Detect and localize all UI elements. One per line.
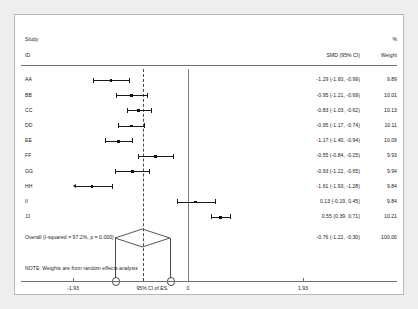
weight-label: 9.94 bbox=[15, 169, 397, 174]
forest-plot-figure: StudyIDSMD (95% CI)%WeightAA-1.29 (-1.60… bbox=[0, 0, 418, 309]
weight-label: 10.09 bbox=[15, 138, 397, 143]
weight-label: 10.21 bbox=[15, 214, 397, 219]
weight-label: 9.93 bbox=[15, 153, 397, 158]
effect-marker bbox=[130, 125, 133, 128]
ci-cap-right bbox=[112, 184, 113, 189]
weight-label: 9.89 bbox=[15, 77, 397, 82]
ci-arrowhead-icon bbox=[73, 184, 76, 188]
x-axis-tick-label: 1.93 bbox=[298, 285, 308, 291]
diamond-leg-left bbox=[115, 238, 116, 279]
ci-cap-left bbox=[138, 154, 139, 159]
ci-cap-left bbox=[211, 214, 212, 219]
ci-cap-right bbox=[173, 154, 174, 159]
x-axis-tick bbox=[188, 278, 189, 281]
x-axis-tick bbox=[73, 278, 74, 281]
null-reference-line bbox=[188, 69, 189, 281]
ci-cap-left bbox=[116, 93, 117, 98]
confidence-interval-line bbox=[76, 186, 111, 187]
column-header-percent: % bbox=[15, 37, 397, 42]
effect-marker bbox=[137, 109, 140, 112]
ci-cap-left bbox=[118, 123, 119, 128]
ci-cap-right bbox=[144, 123, 145, 128]
pooled-estimate-line bbox=[143, 69, 144, 281]
x-axis-title: 95% CI of ES. bbox=[137, 285, 169, 291]
note-text: NOTE: Weights are from random effects an… bbox=[25, 266, 138, 271]
header-separator bbox=[21, 65, 397, 66]
diamond-leg-right bbox=[170, 238, 171, 279]
weight-label: 10.13 bbox=[15, 108, 397, 113]
effect-marker bbox=[219, 216, 222, 219]
x-axis-tick bbox=[303, 278, 304, 281]
ci-cap-left bbox=[177, 199, 178, 204]
effect-marker bbox=[131, 170, 134, 173]
x-axis-tick-label: -1.93 bbox=[67, 285, 79, 291]
pooled-diamond bbox=[115, 229, 170, 247]
ci-cap-right bbox=[129, 78, 130, 83]
column-header-weight: Weight bbox=[15, 53, 397, 58]
x-axis-tick-label: 0 bbox=[187, 285, 190, 291]
plot-panel: StudyIDSMD (95% CI)%WeightAA-1.29 (-1.60… bbox=[14, 14, 404, 295]
effect-marker bbox=[130, 94, 133, 97]
effect-marker bbox=[91, 185, 94, 188]
effect-marker bbox=[110, 79, 113, 82]
plot-area: StudyIDSMD (95% CI)%WeightAA-1.29 (-1.60… bbox=[15, 15, 403, 294]
ci-cap-left bbox=[115, 169, 116, 174]
effect-marker bbox=[194, 201, 197, 204]
ci-cap-left bbox=[93, 78, 94, 83]
ci-cap-left bbox=[105, 138, 106, 143]
ci-cap-right bbox=[230, 214, 231, 219]
ci-cap-right bbox=[215, 199, 216, 204]
ci-cap-right bbox=[147, 93, 148, 98]
effect-marker bbox=[117, 140, 120, 143]
ci-cap-right bbox=[132, 138, 133, 143]
ci-cap-left bbox=[127, 108, 128, 113]
weight-label: 10.01 bbox=[15, 93, 397, 98]
ci-cap-right bbox=[149, 169, 150, 174]
ci-cap-right bbox=[151, 108, 152, 113]
effect-marker bbox=[154, 155, 157, 158]
x-axis-line bbox=[21, 281, 397, 282]
overall-weight-label: 100.00 bbox=[15, 235, 397, 240]
weight-label: 10.11 bbox=[15, 123, 397, 128]
